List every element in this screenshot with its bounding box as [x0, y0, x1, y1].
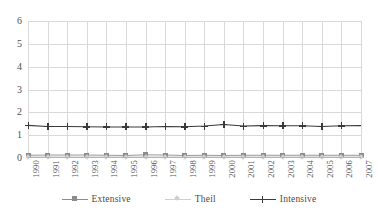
x-tick-label: 1995 — [130, 160, 139, 178]
series-line-intensive — [28, 124, 361, 127]
data-point-intensive — [338, 122, 345, 129]
legend-swatch-theil-icon — [165, 195, 191, 204]
x-tick-label: 2005 — [326, 160, 335, 178]
x-tick-label: 2003 — [287, 160, 296, 178]
y-tick-label: 1 — [2, 130, 22, 140]
x-tick-label: 1999 — [208, 160, 217, 178]
data-point-intensive — [83, 123, 90, 130]
x-tick-label: 2000 — [228, 160, 237, 178]
x-tick-label: 1994 — [110, 160, 119, 178]
data-point-intensive — [201, 123, 208, 130]
legend-label: Theil — [195, 194, 216, 204]
data-point-intensive — [64, 123, 71, 130]
x-axis-line — [28, 157, 361, 158]
chart-legend: ExtensiveTheilIntensive — [0, 190, 378, 208]
y-tick-label: 6 — [2, 16, 22, 26]
y-tick-label: 4 — [2, 62, 22, 72]
y-tick-label: 2 — [2, 107, 22, 117]
chart-container: 0123456 19901991199219931994199519961997… — [0, 0, 378, 212]
y-tick-label: 5 — [2, 39, 22, 49]
series-lines — [28, 21, 361, 158]
series-line-extensive — [28, 155, 361, 156]
gridline-vertical — [361, 21, 362, 158]
legend-label: Extensive — [92, 194, 131, 204]
plot-area — [28, 21, 361, 158]
x-tick-label: 1990 — [32, 160, 41, 178]
legend-item-intensive[interactable]: Intensive — [250, 194, 317, 204]
data-point-intensive — [25, 122, 32, 129]
x-axis-labels: 1990199119921993199419951996199719981999… — [28, 160, 361, 194]
legend-label: Intensive — [280, 194, 317, 204]
y-tick-label: 3 — [2, 85, 22, 95]
legend-item-theil[interactable]: Theil — [165, 194, 216, 204]
x-tick-label: 2006 — [345, 160, 354, 178]
data-point-intensive — [220, 121, 227, 128]
x-tick-label: 1997 — [169, 160, 178, 178]
x-tick-label: 1992 — [71, 160, 80, 178]
x-tick-label: 1998 — [189, 160, 198, 178]
x-tick-label: 2001 — [247, 160, 256, 178]
legend-swatch-extensive-icon — [62, 195, 88, 204]
x-tick-label: 2007 — [365, 160, 374, 178]
data-point-intensive — [103, 123, 110, 130]
legend-swatch-intensive-icon — [250, 195, 276, 204]
data-point-intensive — [181, 123, 188, 130]
x-tick-label: 1993 — [91, 160, 100, 178]
y-tick-label: 0 — [2, 153, 22, 163]
data-point-intensive — [240, 123, 247, 130]
x-tick-label: 1991 — [52, 160, 61, 178]
data-point-intensive — [122, 123, 129, 130]
x-tick-label: 2002 — [267, 160, 276, 178]
x-tick-label: 2004 — [306, 160, 315, 178]
data-point-intensive — [279, 122, 286, 129]
data-point-intensive — [260, 122, 267, 129]
data-point-intensive — [318, 123, 325, 130]
legend-item-extensive[interactable]: Extensive — [62, 194, 131, 204]
data-point-intensive — [299, 122, 306, 129]
data-point-intensive — [44, 123, 51, 130]
data-point-intensive — [142, 123, 149, 130]
data-point-intensive — [162, 123, 169, 130]
x-tick-label: 1996 — [150, 160, 159, 178]
